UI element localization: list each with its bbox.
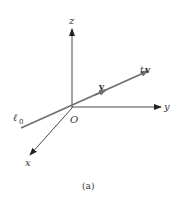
scaled-vector-t-label: t	[140, 65, 144, 75]
x-axis-label: x	[25, 157, 31, 168]
scaled-vector-v-label: v	[144, 65, 151, 75]
line-l0	[21, 71, 148, 128]
line-label-subscript: 0	[19, 118, 23, 126]
line-label-l: ℓ	[13, 112, 17, 123]
y-axis-label: y	[163, 101, 170, 112]
line-through-origin-diagram: z y x O ℓ 0 v t v (a)	[0, 0, 175, 201]
origin-label: O	[70, 114, 78, 125]
z-axis-label: z	[68, 15, 75, 26]
vector-v-label: v	[98, 82, 105, 92]
figure-caption: (a)	[82, 181, 94, 191]
